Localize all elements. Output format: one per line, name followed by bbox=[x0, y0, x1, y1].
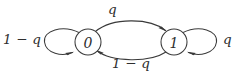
state-diagram-canvas: 0 1 q 1 − q 1 − q q bbox=[0, 0, 241, 76]
transition-0-to-1 bbox=[96, 21, 167, 32]
transition-0-to-1-arrowhead bbox=[158, 27, 166, 32]
state-node-0[interactable]: 0 bbox=[75, 29, 101, 55]
state-0-label: 0 bbox=[84, 35, 93, 51]
state-1-label: 1 bbox=[170, 35, 179, 51]
transition-0-to-1-path bbox=[96, 21, 166, 32]
self-loop-state-1-label: q bbox=[223, 31, 232, 47]
self-loop-state-0-label: 1 − q bbox=[3, 31, 41, 47]
transition-1-to-0-label: 1 − q bbox=[112, 55, 150, 71]
transition-0-to-1-label: q bbox=[108, 1, 117, 17]
state-node-1[interactable]: 1 bbox=[161, 29, 187, 55]
